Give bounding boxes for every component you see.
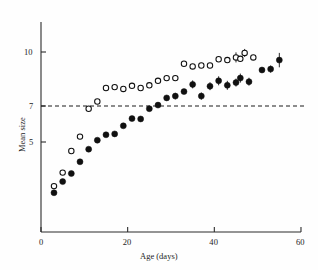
data-point-filled bbox=[246, 79, 252, 85]
data-point-filled bbox=[216, 78, 222, 84]
data-point-filled bbox=[60, 179, 66, 185]
data-point-filled bbox=[198, 93, 204, 99]
data-point-open bbox=[207, 63, 212, 68]
data-point-filled bbox=[94, 137, 100, 143]
data-point-open bbox=[251, 55, 256, 60]
data-point-filled bbox=[112, 131, 118, 137]
data-point-filled bbox=[138, 116, 144, 122]
data-series-group bbox=[51, 49, 282, 196]
y-tick-label-10: 10 bbox=[24, 47, 33, 57]
data-point-filled bbox=[51, 190, 57, 196]
data-point-filled bbox=[155, 102, 161, 108]
data-point-filled bbox=[68, 171, 74, 177]
data-point-filled bbox=[172, 93, 178, 99]
data-point-open bbox=[95, 99, 100, 104]
data-point-filled bbox=[77, 159, 83, 165]
data-point-filled bbox=[259, 67, 265, 73]
data-point-open bbox=[112, 84, 117, 89]
data-point-open bbox=[242, 50, 247, 55]
data-point-open bbox=[238, 56, 243, 61]
scatter-plot-canvas bbox=[0, 0, 318, 270]
data-point-open bbox=[103, 85, 108, 90]
data-point-open bbox=[86, 106, 91, 111]
data-point-open bbox=[129, 83, 134, 88]
data-point-filled bbox=[237, 75, 243, 81]
data-point-filled bbox=[129, 116, 135, 122]
data-point-filled bbox=[190, 81, 196, 87]
data-point-open bbox=[60, 170, 65, 175]
x-tick-label-20: 20 bbox=[123, 237, 132, 247]
x-tick-label-60: 60 bbox=[296, 237, 305, 247]
data-point-filled bbox=[207, 83, 213, 89]
data-point-filled bbox=[103, 132, 109, 138]
data-point-filled bbox=[164, 95, 170, 101]
y-tick-label-7: 7 bbox=[29, 101, 33, 111]
data-point-filled bbox=[276, 57, 282, 63]
data-point-open bbox=[199, 63, 204, 68]
data-point-open bbox=[69, 148, 74, 153]
data-point-open bbox=[147, 83, 152, 88]
x-axis-title: Age (days) bbox=[140, 251, 178, 261]
data-point-filled bbox=[224, 82, 230, 88]
data-point-filled bbox=[181, 89, 187, 95]
data-point-open bbox=[190, 64, 195, 69]
data-point-open bbox=[77, 134, 82, 139]
data-point-filled bbox=[120, 123, 126, 129]
chart-figure: 10 7 5 0 20 40 60 Mean size Age (days) bbox=[0, 0, 318, 270]
axes-group bbox=[41, 22, 301, 232]
data-point-open bbox=[138, 85, 143, 90]
data-point-open bbox=[173, 75, 178, 80]
data-point-open bbox=[164, 75, 169, 80]
data-point-filled bbox=[268, 66, 274, 72]
x-tick-label-40: 40 bbox=[209, 237, 218, 247]
data-point-open bbox=[121, 86, 126, 91]
data-point-open bbox=[216, 57, 221, 62]
x-tick-label-0: 0 bbox=[39, 237, 43, 247]
data-point-filled bbox=[146, 106, 152, 112]
data-point-open bbox=[155, 78, 160, 83]
data-point-filled bbox=[86, 146, 92, 152]
data-point-open bbox=[225, 57, 230, 62]
y-tick-label-5: 5 bbox=[29, 137, 33, 147]
y-axis-title: Mean size bbox=[17, 117, 27, 152]
data-point-filled bbox=[233, 80, 239, 86]
data-point-open bbox=[51, 183, 56, 188]
data-point-open bbox=[181, 61, 186, 66]
